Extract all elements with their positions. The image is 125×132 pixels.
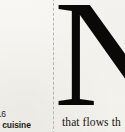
caption-line-topic: nal cuisine <box>0 120 52 130</box>
scanned-page-fragment: s: 16 nal cuisine N that flows th <box>0 0 125 132</box>
left-column: s: 16 nal cuisine <box>0 0 52 132</box>
caption-block: s: 16 nal cuisine <box>0 109 52 130</box>
body-text-line: that flows th <box>62 115 125 129</box>
right-column: N that flows th <box>58 0 125 132</box>
caption-line-count: s: 16 <box>0 109 52 119</box>
column-divider-dashed <box>53 0 54 132</box>
drop-cap-letter: N <box>58 0 125 130</box>
